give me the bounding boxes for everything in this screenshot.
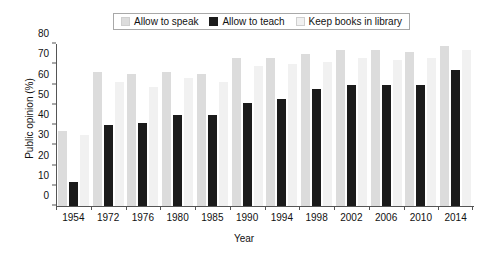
x-axis-tick-mark bbox=[369, 206, 370, 210]
bar-group bbox=[405, 44, 436, 206]
bar bbox=[69, 182, 78, 206]
bar-group bbox=[440, 44, 471, 206]
bar-group bbox=[266, 44, 297, 206]
y-axis-tick-label: 10 bbox=[38, 171, 56, 181]
bar bbox=[336, 50, 345, 206]
y-axis-tick-label: 50 bbox=[38, 90, 56, 100]
y-axis-tick-mark bbox=[52, 144, 56, 145]
bar bbox=[208, 115, 217, 206]
y-axis-tick-mark bbox=[52, 43, 56, 44]
y-axis-tick-mark bbox=[52, 83, 56, 84]
x-axis-tick-label: 1976 bbox=[132, 212, 154, 223]
y-axis-tick-label: 60 bbox=[38, 70, 56, 80]
chart-legend: Allow to speak Allow to teach Keep books… bbox=[113, 13, 410, 30]
legend-swatch-allow-to-speak bbox=[121, 17, 130, 26]
x-axis-tick-label: 1954 bbox=[62, 212, 84, 223]
bar bbox=[405, 52, 414, 206]
x-axis-tick-label: 1972 bbox=[97, 212, 119, 223]
y-axis-tick-label: 40 bbox=[38, 110, 56, 120]
bar-group bbox=[93, 44, 124, 206]
y-axis-tick-label: 70 bbox=[38, 49, 56, 59]
bar bbox=[104, 125, 113, 206]
x-axis-tick-label: 2014 bbox=[445, 212, 467, 223]
bar-group bbox=[58, 44, 89, 206]
x-axis-tick-label: 1985 bbox=[201, 212, 223, 223]
y-axis-tick-mark bbox=[52, 184, 56, 185]
bar bbox=[162, 72, 171, 206]
bar-group bbox=[371, 44, 402, 206]
bar bbox=[382, 85, 391, 207]
bar bbox=[138, 123, 147, 206]
bar-group bbox=[336, 44, 367, 206]
bar bbox=[358, 58, 367, 206]
bar bbox=[93, 72, 102, 206]
bar bbox=[323, 62, 332, 206]
bar-group bbox=[162, 44, 193, 206]
bar-chart-figure: Allow to speak Allow to teach Keep books… bbox=[0, 0, 488, 254]
x-axis-title: Year bbox=[0, 233, 488, 244]
y-axis-tick-mark bbox=[52, 103, 56, 104]
bar bbox=[149, 87, 158, 206]
legend-label-allow-to-speak: Allow to speak bbox=[134, 17, 198, 27]
x-axis-tick-mark bbox=[91, 206, 92, 210]
bar bbox=[277, 99, 286, 206]
bar bbox=[393, 60, 402, 206]
bar bbox=[80, 135, 89, 206]
bar bbox=[427, 58, 436, 206]
y-axis-tick-label: 30 bbox=[38, 130, 56, 140]
bar bbox=[184, 78, 193, 206]
y-axis-tick-label: 80 bbox=[38, 29, 56, 39]
y-axis-tick-label: 0 bbox=[43, 191, 56, 201]
x-axis-tick-label: 1994 bbox=[271, 212, 293, 223]
x-axis-tick-mark bbox=[160, 206, 161, 210]
bar-group bbox=[232, 44, 263, 206]
legend-entry-allow-to-teach: Allow to teach bbox=[209, 17, 284, 27]
y-axis-tick-label: 20 bbox=[38, 151, 56, 161]
x-axis-tick-label: 2002 bbox=[340, 212, 362, 223]
x-axis-tick-mark bbox=[195, 206, 196, 210]
bar-group bbox=[127, 44, 158, 206]
x-axis-tick-mark bbox=[299, 206, 300, 210]
legend-entry-allow-to-speak: Allow to speak bbox=[121, 17, 198, 27]
x-axis-tick-label: 2006 bbox=[375, 212, 397, 223]
x-axis-tick-label: 2010 bbox=[410, 212, 432, 223]
x-axis-tick-mark bbox=[334, 206, 335, 210]
x-axis-tick-mark bbox=[472, 206, 473, 210]
bar-group bbox=[301, 44, 332, 206]
plot-area: 0102030405060708019541972197619801985199… bbox=[56, 44, 473, 206]
bar bbox=[347, 85, 356, 207]
y-axis-tick-mark bbox=[52, 124, 56, 125]
bar bbox=[416, 85, 425, 207]
x-axis-tick-mark bbox=[56, 206, 57, 210]
bar-group bbox=[197, 44, 228, 206]
bar bbox=[232, 58, 241, 206]
bar bbox=[243, 103, 252, 206]
bar bbox=[219, 82, 228, 206]
bar bbox=[266, 58, 275, 206]
x-axis-tick-mark bbox=[230, 206, 231, 210]
bar bbox=[254, 66, 263, 206]
x-axis-tick-label: 1990 bbox=[236, 212, 258, 223]
bar bbox=[451, 70, 460, 206]
y-axis-tick-mark bbox=[52, 63, 56, 64]
x-axis-tick-mark bbox=[265, 206, 266, 210]
bar bbox=[462, 50, 471, 206]
x-axis-tick-label: 1980 bbox=[167, 212, 189, 223]
bar bbox=[197, 74, 206, 206]
bar bbox=[127, 74, 136, 206]
x-axis-tick-mark bbox=[438, 206, 439, 210]
bar bbox=[301, 54, 310, 206]
bar bbox=[440, 46, 449, 206]
legend-label-allow-to-teach: Allow to teach bbox=[222, 17, 284, 27]
x-axis-tick-label: 1998 bbox=[306, 212, 328, 223]
legend-entry-keep-books-in-library: Keep books in library bbox=[296, 17, 402, 27]
bar bbox=[371, 50, 380, 206]
y-axis-tick-mark bbox=[52, 164, 56, 165]
bar bbox=[173, 115, 182, 206]
legend-label-keep-books-in-library: Keep books in library bbox=[309, 17, 402, 27]
bar bbox=[58, 131, 67, 206]
bar bbox=[115, 82, 124, 206]
x-axis-tick-mark bbox=[126, 206, 127, 210]
legend-swatch-allow-to-teach bbox=[209, 17, 218, 26]
legend-swatch-keep-books-in-library bbox=[296, 17, 305, 26]
